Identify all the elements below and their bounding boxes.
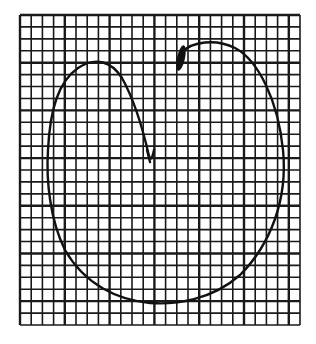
grid-paper-drawing — [0, 0, 316, 344]
